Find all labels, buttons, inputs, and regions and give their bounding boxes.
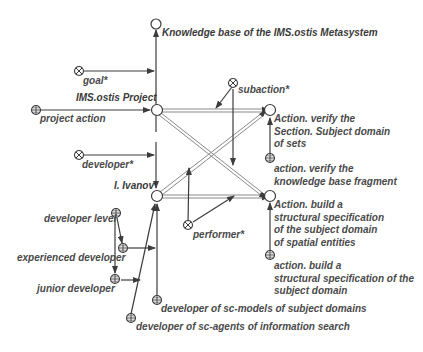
label-action-verify-line-1: Action. verify the [274, 113, 390, 126]
label-performer: performer* [193, 229, 244, 242]
label-action-verify: Action. verify the Section. Subject doma… [274, 113, 390, 151]
label-action-build-line-4: of spatial entities [274, 237, 384, 250]
node-project[interactable] [152, 105, 163, 116]
label-developer-level: developer level [44, 213, 116, 226]
label-class-build-spec-line-2: structural specification of the [274, 273, 414, 286]
label-class-build-spec: action. build a structural specification… [274, 260, 414, 298]
label-action-build: Action. build a structural specification… [274, 199, 384, 249]
label-ivanov: I. Ivanov [114, 180, 154, 193]
class-node-build-spec-icon[interactable] [266, 251, 275, 260]
label-class-verify-kb-line-1: action. verify the [274, 163, 397, 176]
label-class-build-spec-line-1: action. build a [274, 260, 414, 273]
label-dev-sc-models: developer of sc-models of subject domain… [161, 303, 367, 316]
label-action-build-line-2: structural specification [274, 212, 384, 225]
label-goal: goal* [83, 75, 107, 88]
class-node-dev-sc-agents-icon[interactable] [127, 314, 136, 323]
label-class-verify-kb: action. verify the knowledge base fragme… [274, 163, 397, 188]
label-action-verify-line-2: Section. Subject domain [274, 126, 390, 139]
edge-subaction [216, 87, 233, 165]
label-project: IMS.ostis Project [76, 92, 157, 105]
edge-dev-sc-agents [131, 204, 155, 314]
label-kb: Knowledge base of the IMS.ostis Metasyst… [162, 27, 378, 40]
label-subaction: subaction* [238, 84, 289, 97]
label-action-build-line-1: Action. build a [274, 199, 384, 212]
label-class-verify-kb-line-2: knowledge base fragment [274, 176, 397, 189]
label-developer: developer* [82, 159, 133, 172]
label-junior-developer: junior developer [37, 283, 115, 296]
label-dev-sc-agents: developer of sc-agents of information se… [136, 321, 350, 334]
label-action-verify-line-3: of sets [274, 138, 390, 151]
node-kb[interactable] [151, 19, 161, 29]
relation-node-performer-icon[interactable] [184, 221, 193, 230]
label-class-build-spec-line-3: subject domain [274, 285, 414, 298]
label-action-build-line-3: of the subject domain [274, 224, 384, 237]
class-node-verify-kb-icon[interactable] [266, 154, 275, 163]
relation-node-subaction-icon[interactable] [229, 79, 238, 88]
double-edges [159, 109, 264, 198]
label-experienced-developer: experienced developer [17, 252, 125, 265]
label-project-action: project action [40, 113, 106, 126]
